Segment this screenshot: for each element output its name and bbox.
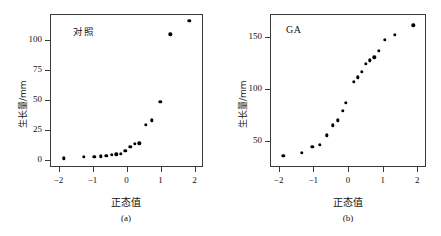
- x-tick-label: 2: [403, 175, 431, 185]
- data-point: [82, 155, 85, 158]
- x-tick-mark: [93, 167, 94, 172]
- data-point: [412, 24, 415, 27]
- y-tick-mark: [45, 40, 50, 41]
- x-tick-label: 1: [147, 175, 175, 185]
- data-point: [144, 123, 147, 126]
- data-point: [377, 49, 380, 52]
- x-tick-mark: [417, 167, 418, 172]
- data-point: [360, 70, 363, 73]
- data-point: [393, 33, 396, 36]
- data-point: [129, 145, 132, 148]
- y-tick-mark: [265, 141, 270, 142]
- data-point: [105, 154, 108, 157]
- x-tick-mark: [161, 167, 162, 172]
- x-tick-label: −1: [299, 175, 327, 185]
- data-point: [336, 118, 339, 121]
- y-tick-mark: [265, 37, 270, 38]
- y-tick-mark: [45, 100, 50, 101]
- x-tick-label: −2: [45, 175, 73, 185]
- data-point: [368, 59, 371, 62]
- scatter-points-b: [271, 15, 425, 166]
- data-point: [318, 143, 321, 146]
- data-point: [356, 76, 359, 79]
- data-point: [138, 142, 141, 145]
- data-point: [110, 153, 113, 156]
- data-point: [115, 152, 118, 155]
- y-tick-label: 100: [14, 34, 42, 44]
- x-tick-label: 0: [113, 175, 141, 185]
- x-tick-label: −2: [265, 175, 293, 185]
- y-tick-mark: [45, 70, 50, 71]
- data-point: [119, 152, 122, 155]
- data-point: [281, 154, 284, 157]
- data-point: [99, 155, 102, 158]
- y-tick-label: 75: [14, 64, 42, 74]
- x-tick-mark: [279, 167, 280, 172]
- panel-a-caption: (a): [76, 213, 176, 223]
- data-point: [331, 124, 334, 127]
- plot-frame-b: [270, 14, 426, 167]
- x-axis-label-a: 正态值: [76, 194, 176, 209]
- x-tick-label: −1: [79, 175, 107, 185]
- panel-b-caption: (b): [298, 213, 398, 223]
- y-tick-mark: [265, 89, 270, 90]
- panel-a-title: 对照: [73, 24, 94, 38]
- data-point: [341, 109, 344, 112]
- panel-a: 对照 0255075100 −2−1012 生长量/mm 正态值 (a): [0, 0, 220, 236]
- y-tick-label: 0: [14, 154, 42, 164]
- data-point: [311, 145, 314, 148]
- data-point: [133, 142, 136, 145]
- panel-b: GA 50100150 −2−1012 生长量/mm 正态值 (b): [221, 0, 441, 236]
- x-tick-mark: [383, 167, 384, 172]
- data-point: [344, 101, 347, 104]
- data-point: [325, 134, 328, 137]
- data-point: [300, 151, 303, 154]
- data-point: [92, 155, 95, 158]
- y-axis-label-b: 生长量/mm: [236, 80, 249, 128]
- data-point: [150, 118, 153, 121]
- figure-container: 对照 0255075100 −2−1012 生长量/mm 正态值 (a) GA …: [0, 0, 441, 236]
- data-point: [124, 149, 127, 152]
- data-point: [169, 32, 172, 35]
- x-tick-mark: [348, 167, 349, 172]
- data-point: [62, 157, 65, 160]
- data-point: [352, 80, 355, 83]
- y-tick-label: 50: [234, 135, 262, 145]
- y-axis-label-a: 生长量/mm: [16, 80, 29, 128]
- x-tick-mark: [59, 167, 60, 172]
- x-tick-label: 1: [369, 175, 397, 185]
- x-tick-label: 0: [334, 175, 362, 185]
- data-point: [364, 62, 367, 65]
- y-tick-label: 150: [234, 31, 262, 41]
- x-axis-label-b: 正态值: [298, 194, 398, 209]
- data-point: [383, 38, 386, 41]
- x-tick-mark: [195, 167, 196, 172]
- x-tick-mark: [127, 167, 128, 172]
- data-point: [373, 55, 376, 58]
- y-tick-mark: [45, 130, 50, 131]
- y-tick-mark: [45, 160, 50, 161]
- data-point: [188, 19, 191, 22]
- x-tick-mark: [313, 167, 314, 172]
- panel-b-title: GA: [286, 24, 301, 35]
- data-point: [158, 100, 161, 103]
- x-tick-label: 2: [181, 175, 209, 185]
